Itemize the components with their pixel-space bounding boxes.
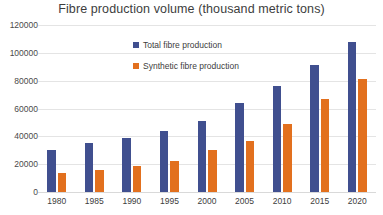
x-tick-label: 2005 (235, 196, 254, 206)
bar-synthetic-2005[interactable] (246, 141, 255, 192)
y-tick-label: 0 (0, 187, 38, 197)
bar-total-2015[interactable] (310, 65, 319, 192)
y-tick-label: 40000 (0, 131, 38, 141)
x-tick-label: 2000 (198, 196, 217, 206)
x-tick-label: 1990 (122, 196, 141, 206)
bar-group (273, 25, 292, 192)
y-tick-label: 120000 (0, 20, 38, 30)
legend-label: Total fibre production (143, 40, 222, 50)
bar-group (348, 25, 367, 192)
chart-title: Fibre production volume (thousand metric… (0, 2, 383, 16)
x-tick-label: 1985 (85, 196, 104, 206)
legend-swatch-icon (133, 63, 139, 69)
x-tick-label: 2015 (310, 196, 329, 206)
y-tick-label: 100000 (0, 48, 38, 58)
x-tick-label: 2010 (273, 196, 292, 206)
bar-total-2020[interactable] (348, 42, 357, 192)
x-tick-label: 1995 (160, 196, 179, 206)
bar-total-2005[interactable] (235, 103, 244, 192)
bar-total-1980[interactable] (47, 150, 56, 192)
legend-swatch-icon (133, 42, 139, 48)
bar-total-2010[interactable] (273, 86, 282, 192)
chart-container: Fibre production volume (thousand metric… (0, 0, 383, 215)
y-tick-label: 20000 (0, 159, 38, 169)
bar-synthetic-1985[interactable] (95, 170, 104, 192)
bar-synthetic-2000[interactable] (208, 150, 217, 192)
bar-synthetic-1990[interactable] (133, 166, 142, 192)
x-tick-label: 2020 (348, 196, 367, 206)
legend-item-total[interactable]: Total fibre production (133, 40, 239, 50)
y-tick-label: 80000 (0, 76, 38, 86)
bar-total-1995[interactable] (160, 131, 169, 192)
chart-legend: Total fibre productionSynthetic fibre pr… (133, 40, 239, 82)
bar-synthetic-2015[interactable] (321, 99, 330, 192)
bar-synthetic-2010[interactable] (283, 124, 292, 192)
bar-group (310, 25, 329, 192)
bar-synthetic-1980[interactable] (58, 173, 67, 192)
bar-total-2000[interactable] (198, 121, 207, 192)
bar-synthetic-1995[interactable] (170, 161, 179, 192)
gridline (38, 192, 376, 193)
x-tick-label: 1980 (47, 196, 66, 206)
legend-label: Synthetic fibre production (143, 61, 239, 71)
bar-total-1990[interactable] (122, 138, 131, 192)
bar-total-1985[interactable] (85, 143, 94, 192)
bar-synthetic-2020[interactable] (358, 79, 367, 192)
bar-group (85, 25, 104, 192)
bar-group (47, 25, 66, 192)
legend-item-synthetic[interactable]: Synthetic fibre production (133, 61, 239, 71)
y-tick-label: 60000 (0, 104, 38, 114)
